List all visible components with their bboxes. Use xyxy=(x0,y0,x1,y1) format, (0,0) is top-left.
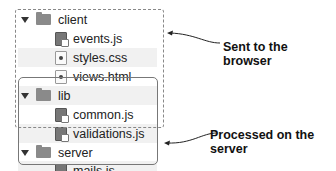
server-scope-solid-box xyxy=(18,77,158,165)
annotation-server: Processed on the server xyxy=(210,128,336,156)
annotation-client: Sent to the browser xyxy=(223,40,336,68)
arrow-icon xyxy=(165,30,225,50)
